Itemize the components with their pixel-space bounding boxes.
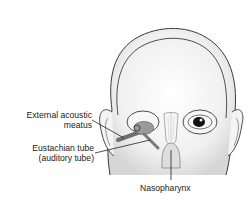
label-external-acoustic-meatus: External acoustic meatus <box>4 110 92 130</box>
head-anatomy-diagram <box>0 0 248 205</box>
label-text: Nasopharynx <box>140 183 191 193</box>
label-line: Eustachian tube <box>4 143 94 153</box>
label-line: (auditory tube) <box>4 153 94 163</box>
label-eustachian-tube: Eustachian tube (auditory tube) <box>4 143 94 163</box>
eye <box>193 117 205 127</box>
label-line: External acoustic <box>4 110 92 120</box>
label-nasopharynx: Nasopharynx <box>140 183 191 193</box>
label-line: meatus <box>4 120 92 130</box>
